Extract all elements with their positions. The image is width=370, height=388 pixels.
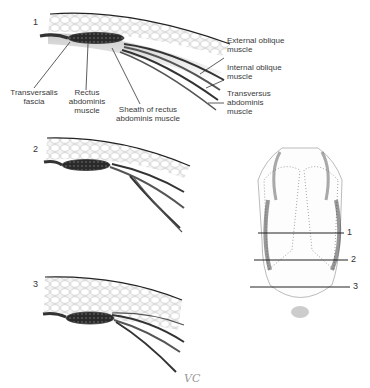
panel-number-1: 1 (33, 17, 38, 27)
label-rectus-sheath: Sheath of rectus abdominis muscle (108, 105, 188, 123)
label-internal-oblique: Internal oblique muscle (227, 63, 282, 81)
artist-signature: VC (184, 372, 200, 385)
label-transversalis-fascia: Transversalis fascia (6, 88, 62, 106)
label-transversus-abdominis: Transversus abdominis muscle (227, 89, 271, 116)
torso-level-2: 2 (351, 254, 356, 264)
label-external-oblique: External oblique muscle (227, 36, 284, 54)
cross-section-3 (43, 277, 184, 372)
torso-level-1: 1 (347, 227, 352, 237)
label-rectus-abdominis: Rectus abdominis muscle (62, 88, 112, 115)
cross-section-2 (44, 138, 190, 232)
torso-drawing (250, 148, 350, 318)
panel-number-3: 3 (33, 279, 38, 289)
anatomy-illustration (0, 0, 370, 388)
torso-level-3: 3 (353, 281, 358, 291)
panel-number-2: 2 (33, 144, 38, 154)
